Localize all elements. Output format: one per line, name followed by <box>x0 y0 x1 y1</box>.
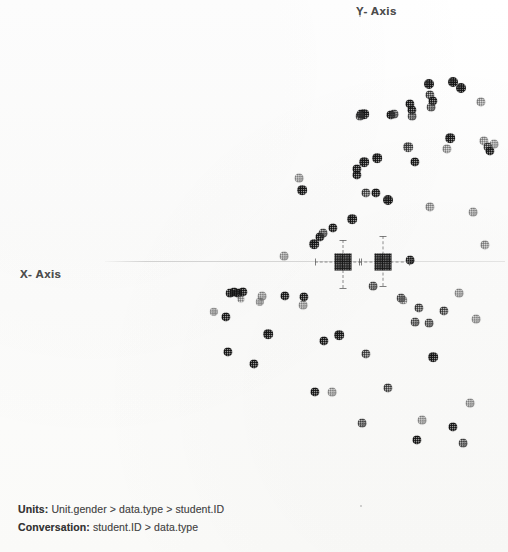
scatter-point <box>480 240 489 249</box>
scatter-point <box>297 185 307 195</box>
scatter-point <box>328 388 337 397</box>
scatter-point <box>411 318 420 327</box>
scatter-point <box>295 174 304 183</box>
footnote-units-label: Units: <box>18 503 48 515</box>
scatter-point <box>223 347 232 356</box>
scatter-point <box>448 422 457 431</box>
scatter-point <box>425 202 434 211</box>
scatter-point <box>361 188 370 197</box>
scatter-point <box>442 144 451 153</box>
error-cap-bottom <box>340 288 347 289</box>
error-cap-top <box>380 236 387 237</box>
scatter-point <box>280 252 289 261</box>
error-cap-right <box>409 259 410 266</box>
stray-speck <box>360 505 362 507</box>
scatter-point <box>455 289 464 298</box>
centroid-marker <box>375 254 392 271</box>
scatter-point <box>469 208 478 217</box>
scatter-point <box>390 110 399 119</box>
scatter-point <box>280 291 289 300</box>
scatter-point <box>369 282 378 291</box>
scatter-plot-page: Y- Axis X- Axis Units: Unit.gender > dat… <box>0 0 508 552</box>
scatter-point <box>309 239 319 249</box>
footnote-conversation-value: student.ID > data.type <box>93 521 198 533</box>
scatter-point <box>456 83 466 93</box>
scatter-point <box>358 419 367 428</box>
scatter-point <box>328 223 337 232</box>
scatter-point <box>310 387 319 396</box>
scatter-point <box>412 435 421 444</box>
scatter-point <box>418 416 427 425</box>
scatter-point <box>319 229 328 238</box>
scatter-point <box>383 195 393 205</box>
scatter-point <box>403 142 413 152</box>
scatter-point <box>372 153 382 163</box>
scatter-point <box>371 188 380 197</box>
scatter-point <box>356 112 365 121</box>
scatter-point <box>428 352 438 362</box>
scatter-point <box>383 383 392 392</box>
scatter-point <box>466 399 475 408</box>
footnote-units: Units: Unit.gender > data.type > student… <box>18 503 224 515</box>
scatter-point <box>256 298 264 306</box>
error-cap-left <box>359 259 360 266</box>
scatter-point <box>439 306 448 315</box>
error-cap-bottom <box>380 286 387 287</box>
scatter-point <box>319 336 328 345</box>
scatter-layer <box>0 0 508 552</box>
scatter-point <box>347 214 357 224</box>
footnote-conversation-label: Conversation: <box>18 521 90 533</box>
footnote-units-value: Unit.gender > data.type > student.ID <box>51 503 224 515</box>
error-cap-top <box>340 240 347 241</box>
scatter-point <box>334 330 344 340</box>
scatter-point <box>472 315 481 324</box>
centroid-marker <box>335 254 352 271</box>
scatter-point <box>299 301 308 310</box>
scatter-point <box>406 256 415 265</box>
scatter-point <box>425 319 434 328</box>
scatter-point <box>263 329 273 339</box>
error-cap-left <box>315 259 316 266</box>
scatter-point <box>445 133 455 143</box>
footnote-conversation: Conversation: student.ID > data.type <box>18 521 198 533</box>
scatter-point <box>427 103 436 112</box>
scatter-point <box>399 296 407 304</box>
scatter-point <box>249 359 258 368</box>
scatter-point <box>459 439 468 448</box>
scatter-point <box>237 295 244 302</box>
scatter-point <box>352 170 361 179</box>
scatter-point <box>299 292 308 301</box>
scatter-point <box>221 312 230 321</box>
scatter-point <box>210 308 218 316</box>
scatter-point <box>476 97 485 106</box>
scatter-point <box>490 140 499 149</box>
scatter-point <box>408 112 417 121</box>
scatter-point <box>414 303 423 312</box>
scatter-point <box>424 79 434 89</box>
scatter-point <box>359 157 369 167</box>
scatter-point <box>361 349 370 358</box>
scatter-point <box>410 157 419 166</box>
